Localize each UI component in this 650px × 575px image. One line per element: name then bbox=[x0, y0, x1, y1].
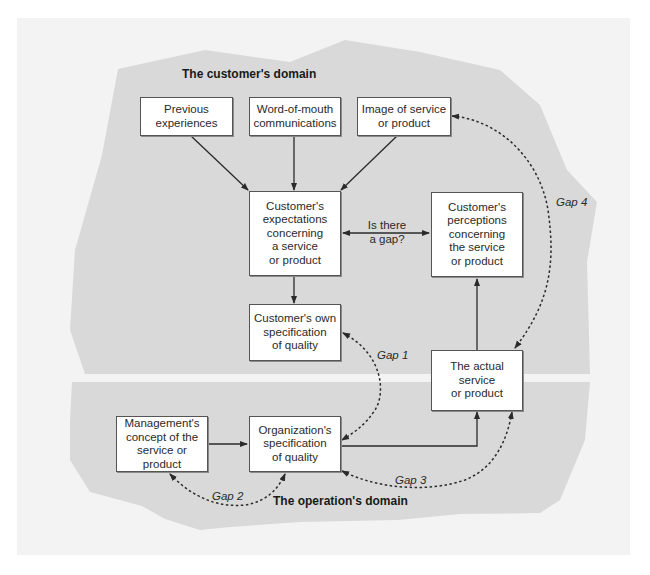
actual-service-box: The actual service or product bbox=[431, 350, 523, 411]
word-of-mouth-box: Word-of-mouth communications bbox=[249, 97, 341, 136]
gap-question-label: Is there a gap? bbox=[362, 219, 412, 246]
gap1-label: Gap 1 bbox=[377, 349, 408, 363]
gap3-label: Gap 3 bbox=[395, 474, 426, 488]
management-concept-box: Management's concept of the service or p… bbox=[116, 416, 208, 472]
gap2-label: Gap 2 bbox=[212, 490, 243, 504]
image-of-service-box: Image of service or product bbox=[357, 97, 451, 136]
organization-specification-box: Organization's specification of quality bbox=[249, 416, 341, 472]
customer-domain-title: The customer's domain bbox=[182, 68, 316, 82]
operation-domain-title: The operation's domain bbox=[273, 495, 408, 509]
customer-perceptions-box: Customer's perceptions concerning the se… bbox=[431, 192, 523, 277]
customer-expectations-box: Customer's expectations concerning a ser… bbox=[249, 191, 341, 276]
customer-own-specification-box: Customer's own specification of quality bbox=[249, 304, 341, 361]
diagram-canvas bbox=[0, 0, 650, 575]
gap4-label: Gap 4 bbox=[556, 196, 587, 210]
previous-experiences-box: Previous experiences bbox=[140, 97, 233, 136]
